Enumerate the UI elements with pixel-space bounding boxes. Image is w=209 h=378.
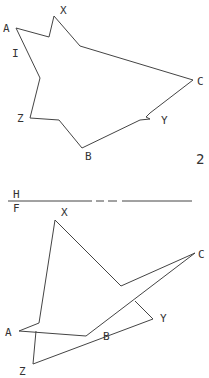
top-label-z: Z <box>17 112 24 125</box>
front-label-z: Z <box>19 365 26 378</box>
top-view-outline <box>16 16 193 148</box>
fold-line: H F <box>8 188 192 215</box>
front-label-a: A <box>5 326 12 339</box>
front-plane-zy <box>33 301 153 364</box>
top-label-x: X <box>60 4 67 17</box>
top-label-y: Y <box>161 114 168 127</box>
top-label-b: B <box>85 150 92 163</box>
front-label-y: Y <box>160 312 167 325</box>
fold-label-f: F <box>13 202 20 215</box>
top-label-i: I <box>12 47 19 60</box>
front-label-x: X <box>61 206 68 219</box>
front-view: X C Y B A Z <box>5 206 205 378</box>
view-number: 2 <box>196 151 204 167</box>
front-label-b: B <box>103 330 110 343</box>
top-label-c: C <box>197 75 204 88</box>
front-plane-axc <box>19 220 195 336</box>
top-view: A X I Z C Y B 2 <box>3 4 204 167</box>
drawing-canvas: A X I Z C Y B 2 H F X C Y B A Z <box>0 0 209 378</box>
fold-label-h: H <box>13 188 20 201</box>
front-label-c: C <box>198 248 205 261</box>
top-label-a: A <box>3 22 10 35</box>
